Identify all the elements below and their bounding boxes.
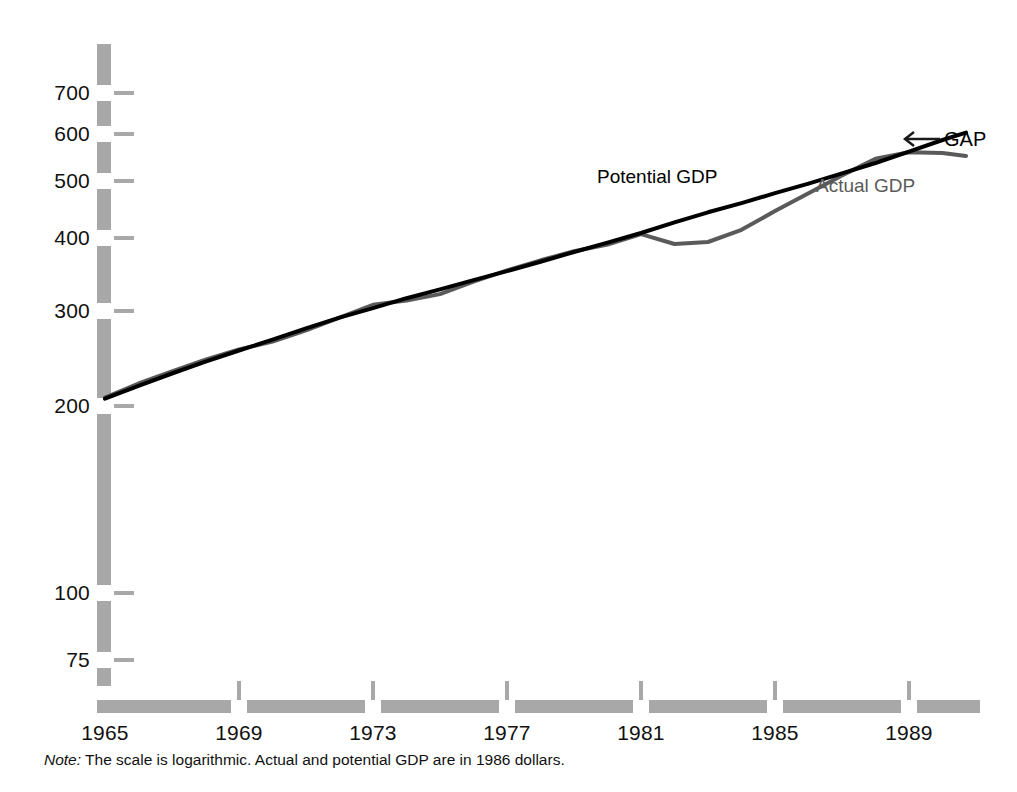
y-tick-label-700: 700 — [28, 81, 90, 105]
annotation-actual-gdp: Actual GDP — [816, 175, 915, 197]
x-tick-label-1977: 1977 — [462, 721, 552, 745]
annotation-gap: GAP — [944, 128, 986, 151]
note-body: The scale is logarithmic. Actual and pot… — [81, 751, 565, 768]
figure-note: Note: The scale is logarithmic. Actual a… — [44, 751, 565, 769]
y-tick-label-500: 500 — [28, 169, 90, 193]
series-line-potential-gdp — [105, 133, 966, 399]
x-tick-label-1969: 1969 — [194, 721, 284, 745]
y-tick-label-600: 600 — [28, 122, 90, 146]
x-tick-marks — [239, 681, 909, 700]
y-tick-label-300: 300 — [28, 299, 90, 323]
y-tick-label-200: 200 — [28, 394, 90, 418]
figure-canvas: 700 600 500 400 300 200 100 75 1965 1969… — [0, 0, 1017, 792]
x-axis-spine — [97, 700, 980, 713]
x-tick-label-1985: 1985 — [730, 721, 820, 745]
x-tick-label-1973: 1973 — [328, 721, 418, 745]
x-tick-label-1965: 1965 — [60, 721, 150, 745]
y-tick-label-75: 75 — [28, 648, 90, 672]
y-tick-label-400: 400 — [28, 226, 90, 250]
x-tick-label-1989: 1989 — [864, 721, 954, 745]
x-tick-label-1981: 1981 — [596, 721, 686, 745]
y-axis-spine — [97, 44, 111, 686]
gdp-line-chart — [0, 0, 1017, 792]
note-keyword: Note: — [44, 751, 81, 768]
y-tick-marks — [114, 93, 134, 660]
y-tick-label-100: 100 — [28, 581, 90, 605]
annotation-potential-gdp: Potential GDP — [597, 166, 717, 188]
